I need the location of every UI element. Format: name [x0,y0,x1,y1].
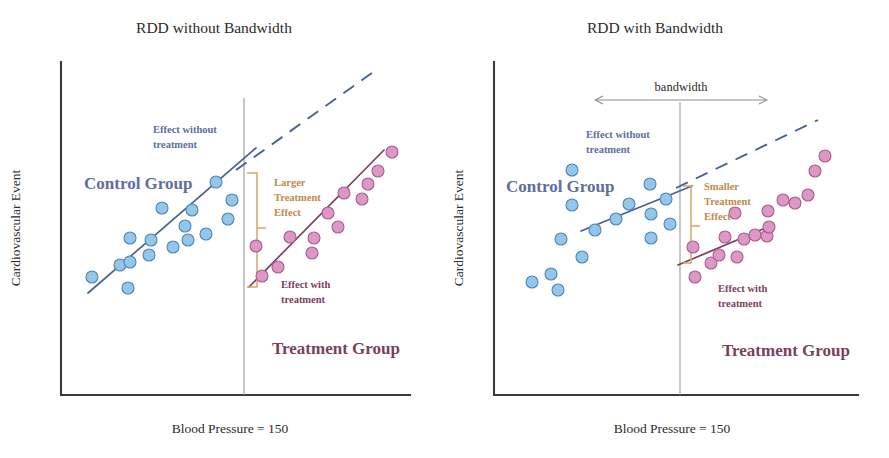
panel-left-effect-bracket [247,173,257,287]
data-point [338,187,350,199]
data-point [762,205,774,217]
data-point [356,193,368,205]
data-point [738,233,750,245]
data-point [182,234,194,246]
data-point [809,165,821,177]
data-point [777,194,789,206]
panel-left-counterfactual-dashed-line [236,70,376,170]
data-point [566,199,578,211]
panel-left-effect-without-treatment-line1: Effect without [153,124,217,135]
panel-right: RDD with Bandwidth Cardiovascular Event … [451,19,858,436]
panel-left-bracket-label-line2: Treatment [274,192,321,203]
data-point [576,251,588,263]
data-point [256,270,268,282]
data-point [250,240,262,252]
panel-right-bandwidth-arrow [595,96,767,104]
panel-right-control-group-label: Control Group [506,177,614,196]
data-point [226,194,238,206]
panel-right-title: RDD with Bandwidth [587,19,723,36]
data-point [645,232,657,244]
data-point [186,204,198,216]
data-point [664,218,676,230]
panel-left-control-points [86,176,238,294]
rdd-figure: RDD without Bandwidth Cardiovascular Eve… [0,0,889,458]
panel-left-title: RDD without Bandwidth [136,19,292,36]
panel-right-effect-without-treatment-line2: treatment [586,144,631,155]
panel-left: RDD without Bandwidth Cardiovascular Eve… [8,19,410,436]
data-point [719,231,731,243]
panel-right-effect-without-treatment-line1: Effect without [586,129,650,140]
panel-left-x-axis-title: Blood Pressure = 150 [172,421,289,436]
data-point [145,234,157,246]
panel-left-effect-with-treatment-line1: Effect with [281,279,330,290]
panel-left-treatment-fit-line [249,150,384,287]
panel-right-treatment-group-label: Treatment Group [722,341,850,360]
panel-left-effect-without-treatment-line2: treatment [153,139,198,150]
data-point [122,282,134,294]
data-point [372,165,384,177]
data-point [200,228,212,240]
data-point [362,178,374,190]
data-point [386,146,398,158]
panel-left-bracket-label-line3: Effect [274,207,301,218]
data-point [124,256,136,268]
panel-left-y-axis-title: Cardiovascular Event [8,169,23,286]
data-point [308,232,320,244]
panel-left-effect-with-treatment-line2: treatment [281,294,326,305]
data-point [819,150,831,162]
data-point [545,268,557,280]
data-point [555,233,567,245]
panel-right-counterfactual-dashed-line [676,120,818,188]
data-point [589,224,601,236]
data-point [306,247,318,259]
panel-left-bracket-label-line1: Larger [274,177,306,188]
data-point [284,231,296,243]
panel-right-bracket-label-line3: Effect [704,211,731,222]
panel-left-control-group-label: Control Group [84,174,192,193]
data-point [731,251,743,263]
data-point [322,207,334,219]
data-point [124,232,136,244]
data-point [789,197,801,209]
data-point [272,261,284,273]
data-point [802,189,814,201]
data-point [210,176,222,188]
data-point [749,229,761,241]
panel-right-bracket-label-line1: Smaller [704,181,739,192]
data-point [222,213,234,225]
panel-right-bracket-label-line2: Treatment [704,196,751,207]
panel-right-bandwidth-label: bandwidth [655,80,709,94]
data-point [623,198,635,210]
data-point [660,193,672,205]
data-point [713,249,725,261]
data-point [143,249,155,261]
panel-right-effect-with-treatment-line2: treatment [718,298,763,309]
data-point [645,208,657,220]
data-point [689,271,701,283]
data-point [526,276,538,288]
data-point [552,284,564,296]
data-point [332,221,344,233]
data-point [167,241,179,253]
panel-right-effect-with-treatment-line1: Effect with [718,283,767,294]
panel-right-y-axis-title: Cardiovascular Event [451,169,466,286]
data-point [86,271,98,283]
panel-left-treatment-points [250,146,398,282]
panel-right-x-axis-title: Blood Pressure = 150 [614,421,731,436]
data-point [566,164,578,176]
panel-left-treatment-group-label: Treatment Group [272,339,400,358]
data-point [687,241,699,253]
data-point [644,178,656,190]
data-point [610,213,622,225]
data-point [179,220,191,232]
data-point [763,221,775,233]
data-point [156,202,168,214]
